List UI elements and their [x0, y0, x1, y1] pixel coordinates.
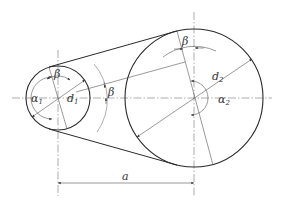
center-distance-label: a [122, 170, 129, 183]
small-wrap-angle-label: α1 [31, 92, 43, 106]
middle-beta-label: β [107, 86, 114, 99]
belt-lower-span [49, 129, 177, 165]
belt-drive-diagram: α1 d1 β β β d2 α2 a [0, 0, 281, 209]
small-diameter-label: d1 [67, 92, 79, 106]
large-beta-arc [163, 46, 216, 57]
small-beta-label: β [53, 68, 60, 81]
large-beta-label: β [181, 35, 188, 48]
diagram-canvas: α1 d1 β β β d2 α2 a [0, 0, 281, 209]
large-wrap-angle-label: α2 [218, 93, 230, 107]
belt-upper-span [49, 31, 177, 67]
large-diameter-label: d2 [212, 70, 224, 84]
belt-parallel-line [76, 62, 185, 92]
